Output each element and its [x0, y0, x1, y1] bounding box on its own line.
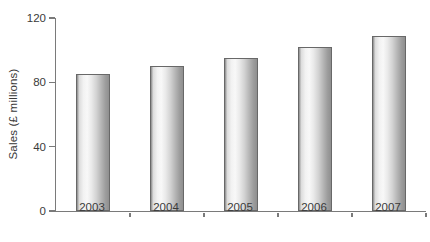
y-axis-tick-label: 40	[14, 141, 46, 153]
x-axis-tick	[129, 213, 131, 218]
bar-2006	[298, 47, 332, 211]
y-axis-title: Sales (£ millions)	[7, 54, 19, 174]
y-axis-tick	[49, 146, 55, 148]
x-axis-category-label: 2006	[284, 201, 344, 213]
x-axis-category-label: 2005	[210, 201, 270, 213]
bar-2007	[372, 36, 406, 211]
x-axis-category-label: 2004	[136, 201, 196, 213]
bar-2005	[224, 58, 258, 211]
plot-area: 04080120	[55, 18, 426, 212]
y-axis-tick-label: 0	[14, 205, 46, 217]
y-axis-tick-label: 120	[14, 12, 46, 24]
y-axis-tick	[49, 82, 55, 84]
y-axis-tick-label: 80	[14, 76, 46, 88]
sales-bar-chart: Sales (£ millions) 04080120 200320042005…	[0, 0, 430, 242]
x-axis-category-label: 2003	[62, 201, 122, 213]
bar-2004	[150, 66, 184, 211]
x-axis-category-label: 2007	[358, 201, 418, 213]
y-axis-tick	[49, 17, 55, 19]
x-axis-tick	[277, 213, 279, 218]
x-axis-tick	[425, 213, 427, 218]
y-axis-tick	[49, 210, 55, 212]
x-axis-tick	[351, 213, 353, 218]
x-axis-tick	[203, 213, 205, 218]
bar-2003	[76, 74, 110, 211]
